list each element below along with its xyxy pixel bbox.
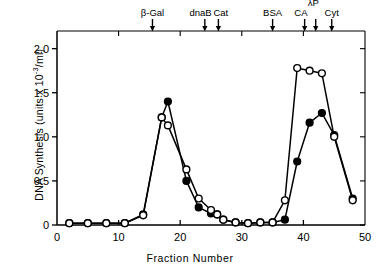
data-point-filled <box>195 204 202 211</box>
data-point-open <box>214 211 221 218</box>
data-point-open <box>319 70 326 77</box>
y-axis-label-units-pre: (units x 10 <box>33 74 45 128</box>
data-point-filled <box>282 216 289 223</box>
x-tick-label: 20 <box>174 231 186 243</box>
x-axis-label: Fraction Number <box>0 252 380 264</box>
axes <box>52 31 365 225</box>
marker-label-Cyt: Cyt <box>325 7 340 18</box>
data-point-open <box>121 220 128 227</box>
marker-label-CA: CA <box>294 7 308 18</box>
y-axis-label: DNA Synthesis (units x 10-3/ml) <box>31 25 45 225</box>
data-point-open <box>183 166 190 173</box>
x-tick-label: 10 <box>112 231 124 243</box>
marker-label-λP: λP <box>308 0 319 8</box>
data-point-open <box>282 197 289 204</box>
data-point-open <box>165 122 172 129</box>
chart-figure: β-GaldnaBCatBSACAλPCyt 00.51.01.52.00102… <box>0 0 380 271</box>
data-point-open <box>269 219 276 226</box>
dna-synthesis-line-chart: β-GaldnaBCatBSACAλPCyt 00.51.01.52.00102… <box>0 0 380 271</box>
data-point-filled <box>294 158 301 165</box>
data-point-filled <box>165 98 172 105</box>
x-tick-label: 0 <box>54 231 60 243</box>
molecular-weight-markers: β-GaldnaBCatBSACAλPCyt <box>141 0 339 32</box>
x-tick-label: 30 <box>236 231 248 243</box>
marker-label-Cat: Cat <box>213 7 228 18</box>
data-point-open <box>245 220 252 227</box>
data-point-open <box>140 212 147 219</box>
data-series <box>66 65 356 227</box>
data-point-open <box>232 219 239 226</box>
data-point-open <box>331 133 338 140</box>
data-point-open <box>220 216 227 223</box>
y-axis-label-main: DNA Synthesis <box>33 128 45 201</box>
series-line-open-circles <box>69 68 352 223</box>
data-point-open <box>66 220 73 227</box>
data-point-open <box>103 220 110 227</box>
data-point-open <box>158 114 165 121</box>
data-point-filled <box>319 110 326 117</box>
data-point-open <box>84 220 91 227</box>
data-point-open <box>257 219 264 226</box>
data-point-open <box>349 197 356 204</box>
data-point-open <box>306 67 313 74</box>
y-axis-label-units-post: /ml) <box>33 49 45 67</box>
marker-label-BSA: BSA <box>263 7 283 18</box>
marker-label-dnaB: dnaB <box>189 7 211 18</box>
data-point-open <box>294 65 301 72</box>
x-tick-label: 50 <box>359 231 371 243</box>
data-point-open <box>208 207 215 214</box>
data-point-filled <box>306 119 313 126</box>
x-tick-label: 40 <box>297 231 309 243</box>
marker-label-β-Gal: β-Gal <box>141 7 164 18</box>
data-point-filled <box>183 178 190 185</box>
data-point-open <box>195 195 202 202</box>
y-axis-label-exponent: -3 <box>31 67 40 74</box>
